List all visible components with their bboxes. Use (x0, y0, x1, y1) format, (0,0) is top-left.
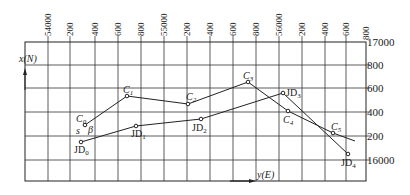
point-labels: C0 C1 C2 C3 C4 C5 JD0 JD1 JD2 JD3 JD4 s … (74, 70, 356, 170)
top-tick-8: 600 (228, 22, 238, 36)
right-tick-1: 800 (367, 59, 384, 71)
top-axis-labels: 54000 200 400 600 800 55000 200 400 600 … (43, 13, 371, 40)
right-tick-0: 17000 (367, 36, 395, 48)
coordinate-grid-diagram: 54000 200 400 600 800 55000 200 400 600 … (0, 0, 410, 195)
right-tick-2: 600 (367, 82, 384, 94)
top-tick-5: 55000 (159, 13, 169, 36)
top-tick-10: 56000 (274, 13, 284, 36)
right-tick-3: 400 (367, 106, 384, 118)
label-jd0: JD0 (74, 144, 89, 157)
north-axis-label: x(N) (18, 53, 37, 65)
right-tick-5: 16000 (367, 154, 395, 166)
label-c4: C4 (283, 114, 294, 127)
top-tick-11: 200 (297, 22, 307, 36)
top-tick-7: 400 (205, 22, 215, 36)
north-axis-arrow (23, 68, 27, 90)
point-jd3 (281, 91, 285, 95)
top-tick-12: 400 (320, 22, 330, 36)
label-jd4: JD4 (341, 157, 356, 170)
top-tick-9: 800 (251, 22, 261, 36)
point-jd2 (199, 117, 203, 121)
top-tick-6: 200 (182, 22, 192, 36)
label-jd1: JD1 (131, 128, 146, 141)
top-tick-2: 400 (90, 22, 100, 36)
top-tick-3: 600 (113, 22, 123, 36)
route-jd-line (81, 93, 348, 154)
top-tick-13: 600 (341, 22, 351, 36)
label-beta: β (87, 124, 93, 135)
right-tick-4: 200 (367, 130, 384, 142)
right-axis-labels: 17000 800 600 400 200 16000 (367, 36, 395, 166)
top-tick-4: 800 (136, 22, 146, 36)
point-c4 (286, 109, 290, 113)
east-axis-arrow (230, 179, 256, 183)
top-tick-1: 200 (65, 22, 75, 36)
grid-vertical-lines (48, 36, 346, 181)
label-jd2: JD2 (192, 122, 207, 135)
label-s: s (76, 125, 80, 136)
point-jd4 (346, 152, 350, 156)
top-tick-0: 54000 (43, 13, 53, 36)
east-axis-label: y(E) (256, 169, 275, 181)
point-c2 (186, 102, 190, 106)
